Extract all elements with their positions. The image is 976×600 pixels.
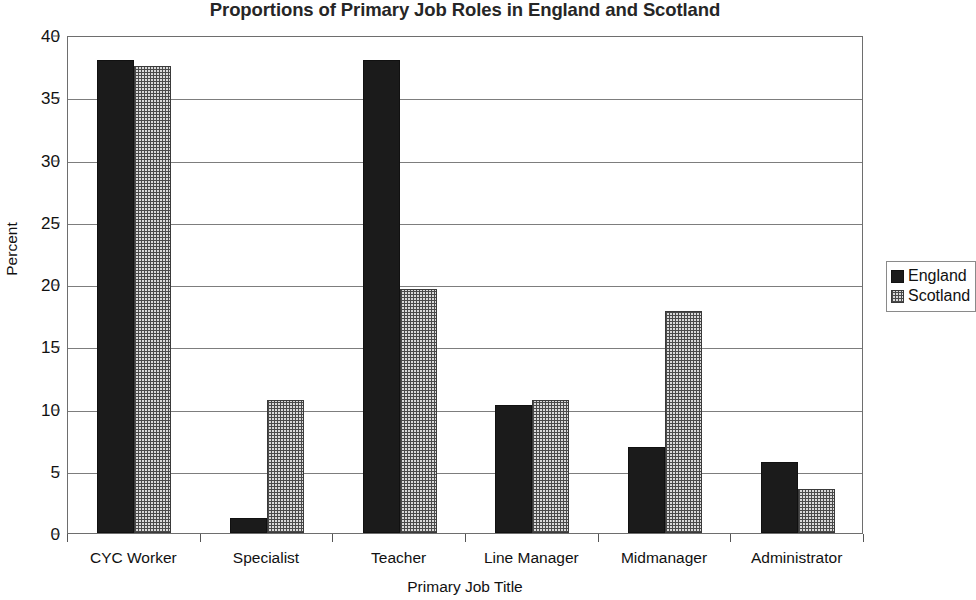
legend-label-scotland: Scotland [908,288,970,304]
y-tick-mark [53,36,60,37]
y-tick-mark [53,347,60,348]
bar-scotland-teacher[interactable] [400,289,437,533]
bar-england-cyc-worker[interactable] [97,60,134,533]
x-axis-title: Primary Job Title [67,578,863,596]
bar-england-line-manager[interactable] [495,405,532,533]
legend-item-england[interactable]: England [891,266,972,286]
gridline [68,99,862,100]
y-tick-mark [53,222,60,223]
bar-england-teacher[interactable] [363,60,400,533]
bar-scotland-specialist[interactable] [267,400,304,533]
gridline [68,162,862,163]
y-tick-mark [53,98,60,99]
gridline [68,411,862,412]
y-tick-mark [53,534,60,535]
legend-label-england: England [908,268,967,284]
x-tick-label-administrator: Administrator [751,549,842,567]
bar-scotland-midmanager[interactable] [665,311,702,533]
bar-scotland-administrator[interactable] [798,489,835,533]
gridline [68,473,862,474]
scotland-swatch-icon [891,290,904,303]
england-swatch-icon [891,270,904,283]
bar-england-administrator[interactable] [761,462,798,533]
y-tick-mark [53,285,60,286]
plot-area [67,36,863,534]
gridline [68,286,862,287]
bar-scotland-cyc-worker[interactable] [134,66,171,533]
y-tick-mark [53,160,60,161]
x-tick-label-teacher: Teacher [371,549,426,567]
y-tick-mark [53,409,60,410]
x-tick-mark [332,534,333,542]
bar-scotland-line-manager[interactable] [532,400,569,533]
x-tick-label-midmanager: Midmanager [621,549,707,567]
x-tick-label-specialist: Specialist [233,549,299,567]
x-tick-mark [863,534,864,542]
legend: England Scotland [886,261,976,312]
x-tick-mark [598,534,599,542]
chart-title: Proportions of Primary Job Roles in Engl… [60,0,870,21]
x-tick-mark [730,534,731,542]
bar-england-midmanager[interactable] [628,447,665,533]
x-tick-label-cyc-worker: CYC Worker [90,549,177,567]
legend-item-scotland[interactable]: Scotland [891,286,972,306]
x-tick-mark [67,534,68,542]
x-tick-mark [200,534,201,542]
y-tick-mark [53,471,60,472]
x-tick-label-line-manager: Line Manager [484,549,579,567]
gridline [68,348,862,349]
x-tick-mark [465,534,466,542]
bar-england-specialist[interactable] [230,518,267,533]
y-axis-title: Percent [3,199,21,299]
gridline [68,224,862,225]
